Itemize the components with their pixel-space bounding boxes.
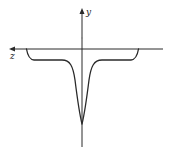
y-axis-arrow-icon: [80, 8, 85, 14]
y-axis-label: y: [86, 8, 91, 17]
diagram-canvas: z y: [0, 0, 170, 149]
diagram-svg: [0, 0, 170, 149]
z-axis-label: z: [10, 52, 15, 61]
